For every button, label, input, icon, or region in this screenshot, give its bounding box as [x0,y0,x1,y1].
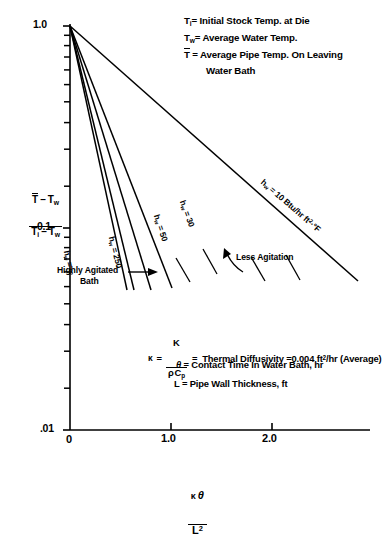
note-theta-definition: θ = Contact Time In Water Bath, hr [176,360,323,370]
legend-ti-eq: = [191,15,197,26]
L-symbol: L [192,525,199,537]
legend-ti-text: Initial Stock Temp. at Die [200,15,310,26]
y-axis-major-ticks [63,26,70,430]
legend-item-tw: Tw= Average Water Temp. [184,33,297,45]
y-denom-minus: – [41,226,47,237]
legend-tbar-eq: = [192,49,198,60]
annotation-highly-agitated-bath-line1: Highly Agitated [57,266,118,275]
note-theta-text: Contact Time In Water Bath, hr [191,359,323,370]
L-exponent: 2 [199,524,203,533]
y-denom-tw-sub: w [55,231,60,238]
x-tick-label-2: 2.0 [262,433,277,445]
y-axis-title-denominator: Ti–Tw [29,226,62,238]
y-axis-title: T–Tw Ti–Tw [18,163,62,270]
y-denom-ti-sub: i [37,231,39,238]
curve-label-hw-30-sub: w [179,205,186,211]
legend-tbar-text: Average Pipe Temp. On Leaving [200,49,343,60]
y-numer-tw-sub: w [54,198,59,205]
t-bar-symbol: T [32,195,38,206]
x-tick-label-0: 0 [66,434,72,446]
legend-tw-eq: = [195,32,201,43]
note-rho-symbol: ρ [168,367,174,378]
curve-label-hw-50-sub: w [153,219,160,225]
x-axis-ticks [171,423,272,430]
arrow-less-agitation-head [223,248,231,259]
annotation-less-agitation: Less Agitation [236,253,294,262]
curve-label-hw-250-sub: w [108,241,115,247]
theta-symbol: θ [198,489,204,501]
y-axis-title-numerator: T–Tw [29,195,62,206]
legend-tbar-symbol: T [184,50,190,60]
note-kappa-symbol: κ [148,354,153,363]
curve-hw-30 [70,26,172,288]
annotation-highly-agitated-bath-line2: Bath [80,277,99,286]
note-L-definition: L = Pipe Wall Thickness, ft [174,379,287,389]
y-numer-minus: – [40,194,46,205]
note-theta-eq: = [184,359,189,370]
note-kappa-numerator: K [166,338,187,348]
y-axis-minor-ticks [64,35,70,388]
x-axis-title-numerator: κθ [188,490,206,502]
legend-item-ti: Ti= Initial Stock Temp. at Die [184,16,310,28]
legend-item-tbar: T = Average Pipe Temp. On Leaving [184,50,343,60]
y-tick-label-0p01: .01 [40,423,54,434]
note-kappa-rest-b: /hr (Average) [326,354,382,364]
callout-arrows [128,248,243,276]
curve-hw-250 [70,26,134,290]
note-kappa-eq: = [157,354,162,364]
legend-item-tbar-line2: Water Bath [206,66,255,76]
note-L-symbol: L [174,378,179,389]
kappa-symbol: κ [191,491,196,501]
note-L-text: Pipe Wall Thickness, ft [190,378,288,389]
x-axis-title: κθ L2 [176,455,207,538]
y-tick-label-1: 1.0 [33,19,47,30]
legend-tw-text: Average Water Temp. [202,32,297,43]
curve-label-hw-infinity-sub: w [63,255,70,261]
x-tick-label-1: 1.0 [161,433,176,445]
arrow-highly-agitated-head [148,268,158,276]
x-axis-title-denominator: L2 [188,524,206,537]
note-theta-symbol: θ [176,359,181,370]
note-L-eq: = [182,378,187,389]
